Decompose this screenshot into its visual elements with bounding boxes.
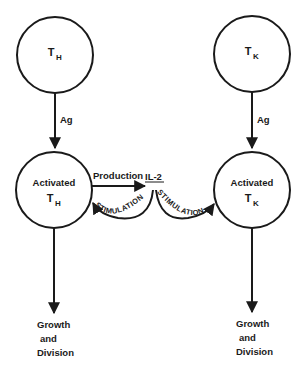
edge-production-label: Production — [93, 170, 143, 181]
node-activated-tk-sub: K — [253, 199, 259, 208]
node-activated-tk: Activated T K — [214, 152, 290, 228]
mediator-il2: IL-2 — [145, 171, 164, 182]
node-activated-tk-line1: Activated — [231, 177, 274, 188]
node-tk: T K — [214, 16, 290, 92]
node-activated-th-line1: Activated — [33, 177, 76, 188]
edge-ag-left: Ag — [55, 93, 73, 148]
outcome-right: Growth and Division — [236, 318, 273, 357]
node-tk-sub: K — [253, 52, 259, 61]
edge-stimulation-right: STIMULATION — [155, 188, 214, 219]
node-activated-th-main: T — [47, 192, 54, 204]
node-th: T H — [17, 17, 93, 93]
node-activated-tk-main: T — [245, 192, 252, 204]
edge-stimulation-left-label: STIMULATION — [93, 192, 145, 216]
edge-ag-right: Ag — [252, 92, 270, 148]
outcome-right-line1: Growth — [236, 318, 269, 329]
node-th-sub: H — [56, 53, 62, 62]
edge-stimulation-right-label: STIMULATION — [155, 188, 205, 218]
outcome-right-line2: and — [239, 332, 256, 343]
outcome-right-line3: Division — [236, 346, 273, 357]
outcome-left-line2: and — [40, 333, 57, 344]
node-activated-th-sub: H — [55, 199, 61, 208]
node-th-circle — [17, 17, 93, 93]
node-activated-th: Activated T H — [16, 152, 92, 228]
node-activated-tk-circle — [214, 152, 290, 228]
node-tk-main: T — [245, 45, 252, 57]
outcome-left-line3: Division — [37, 347, 74, 358]
node-th-main: T — [48, 46, 55, 58]
mediator-il2-label: IL-2 — [145, 171, 162, 182]
node-tk-circle — [214, 16, 290, 92]
edge-production: Production — [92, 170, 145, 186]
diagram-canvas: T H T K Ag Ag Activated T H Activated T … — [0, 0, 306, 371]
node-activated-th-circle — [16, 152, 92, 228]
outcome-left: Growth and Division — [37, 319, 74, 358]
edge-stimulation-left: STIMULATION — [93, 190, 153, 218]
edge-ag-right-label: Ag — [257, 114, 270, 125]
outcome-left-line1: Growth — [37, 319, 70, 330]
edge-ag-left-label: Ag — [60, 114, 73, 125]
